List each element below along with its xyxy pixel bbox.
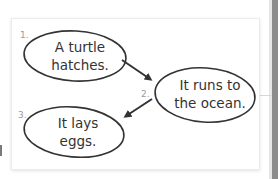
step-2-line1: It runs to xyxy=(179,77,240,93)
sequence-diagram: 1. A turtle hatches. 2. It runs to the o… xyxy=(0,0,278,179)
step-3-line2: eggs. xyxy=(60,133,97,149)
step-3: 3. It lays eggs. xyxy=(18,103,126,162)
step-3-oval xyxy=(22,103,126,162)
step-1: 1. A turtle hatches. xyxy=(20,28,127,83)
arrow-1-to-2 xyxy=(122,60,150,79)
step-1-oval xyxy=(23,28,127,83)
step-3-line1: It lays xyxy=(58,115,99,131)
step-1-number: 1. xyxy=(20,30,29,40)
step-2: 2. It runs to the ocean. xyxy=(141,65,257,126)
step-1-line2: hatches. xyxy=(51,57,109,73)
step-2-number: 2. xyxy=(141,89,150,99)
arrow-2-to-3 xyxy=(126,99,152,116)
step-3-number: 3. xyxy=(18,110,27,120)
step-1-line1: A turtle xyxy=(55,39,105,55)
step-2-line2: the ocean. xyxy=(174,95,246,111)
